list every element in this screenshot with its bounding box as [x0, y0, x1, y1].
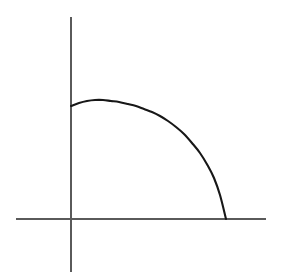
figure-background — [0, 0, 282, 276]
plot-canvas — [0, 0, 282, 276]
figure-root — [0, 0, 282, 276]
